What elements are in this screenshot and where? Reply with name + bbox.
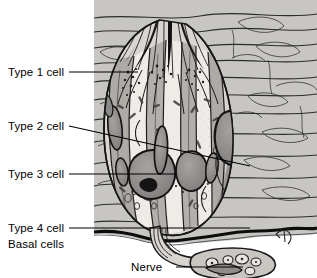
label-type-2-cell: Type 2 cell	[8, 120, 64, 132]
label-type-1-cell: Type 1 cell	[8, 66, 64, 78]
nerve-bundle	[190, 248, 275, 278]
label-type-4-cell: Type 4 cell	[8, 222, 64, 234]
label-basal-cells: Basal cells	[8, 238, 64, 250]
label-type-3-cell: Type 3 cell	[8, 168, 64, 180]
taste-bud-figure: Type 1 cell Type 2 cell Type 3 cell Type…	[0, 0, 317, 278]
taste-bud-illustration: Type 1 cell Type 2 cell Type 3 cell Type…	[0, 0, 317, 278]
label-nerve: Nerve	[131, 261, 162, 273]
